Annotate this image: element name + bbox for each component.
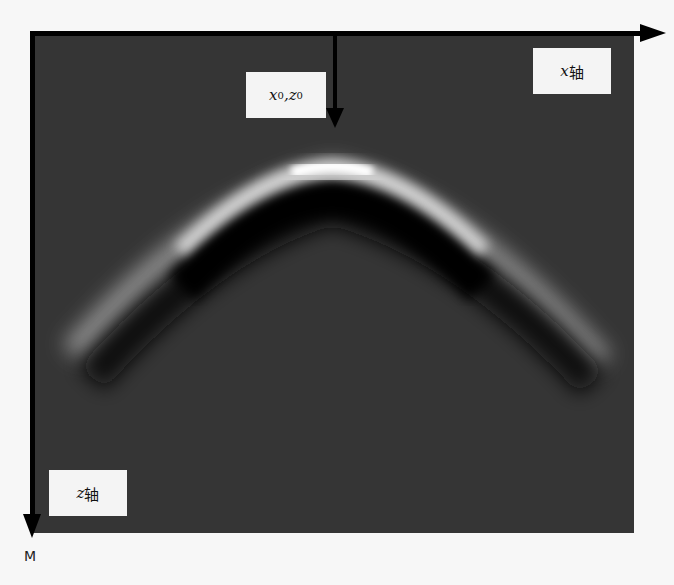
x-axis-label: x轴 — [533, 48, 611, 94]
source-x-var: x — [269, 86, 277, 104]
corner-label: M — [24, 548, 36, 564]
z-axis-var: z — [77, 484, 85, 502]
z-axis-line — [30, 31, 35, 519]
source-z-subscript: 0 — [297, 90, 303, 101]
x-axis-var: x — [560, 62, 568, 80]
x-axis-arrow-icon — [640, 24, 666, 42]
source-pointer-line — [333, 33, 337, 113]
source-pointer-arrow-icon — [326, 108, 344, 128]
z-axis-label: z轴 — [49, 470, 127, 516]
x-axis-line — [30, 31, 645, 36]
hyperbola-apex-highlight — [292, 166, 372, 173]
source-point-label: x0,z0 — [246, 72, 326, 118]
hyperbola-dark-band — [92, 208, 592, 383]
x-axis-text: 轴 — [569, 61, 584, 82]
source-z-var: z — [289, 86, 297, 104]
z-axis-arrow-icon — [23, 514, 41, 538]
z-axis-text: 轴 — [84, 483, 99, 504]
